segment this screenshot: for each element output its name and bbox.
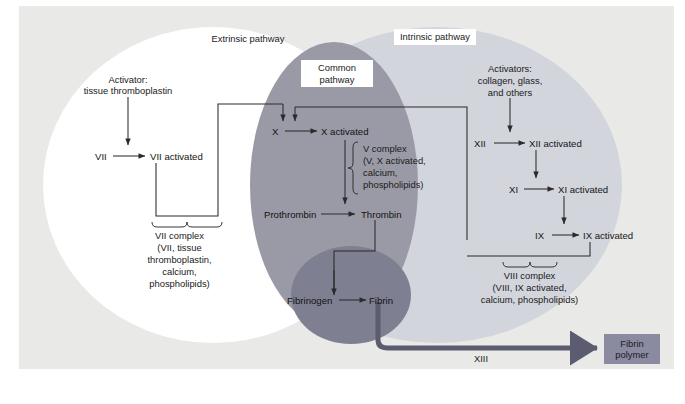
common-pathway-title-line2: pathway — [320, 74, 355, 85]
node-vii-activated: VII activated — [150, 151, 203, 162]
fibrin-polymer-line2: polymer — [615, 349, 648, 360]
extrinsic-activator-line2: tissue thromboplastin — [63, 85, 193, 97]
node-prothrombin: Prothrombin — [264, 209, 316, 220]
intrinsic-activator-line1: Activators: — [455, 63, 565, 75]
factor-xiii-label: XIII — [461, 353, 501, 365]
viii-complex-caption-line1: VIII complex — [457, 270, 602, 282]
vii-complex-caption-line4: calcium, — [117, 266, 242, 278]
common-pathway-title-line1: Common — [318, 62, 356, 73]
intrinsic-pathway-title: Intrinsic pathway — [394, 29, 476, 45]
vii-complex-caption-line5: phospholipids) — [117, 278, 242, 290]
node-thrombin: Thrombin — [361, 209, 402, 220]
extrinsic-pathway-title: Extrinsic pathway — [193, 33, 303, 45]
node-xi: XI — [509, 184, 518, 195]
coagulation-cascade-figure: Extrinsic pathway Intrinsic pathway Comm… — [0, 0, 685, 404]
intrinsic-activator-line3: and others — [455, 87, 565, 99]
fibrin-polymer-line1: Fibrin — [620, 338, 643, 349]
vii-complex-caption-line1: VII complex — [117, 230, 242, 242]
intrinsic-activator-line2: collagen, glass, — [455, 75, 565, 87]
vii-complex-caption-line3: thromboplastin, — [117, 254, 242, 266]
node-xii: XII — [474, 138, 486, 149]
node-ix-activated: IX activated — [583, 230, 633, 241]
node-ix: IX — [535, 230, 544, 241]
vii-complex-caption-line2: (VII, tissue — [117, 242, 242, 254]
node-fibrinogen: Fibrinogen — [287, 295, 332, 306]
node-fibrin: Fibrin — [369, 295, 393, 306]
v-complex-line1: V complex — [363, 143, 407, 155]
node-x-activated: X activated — [321, 126, 368, 137]
node-xii-activated: XII activated — [529, 138, 582, 149]
node-vii: VII — [95, 151, 107, 162]
viii-complex-caption-line3: calcium, phospholipids) — [457, 294, 602, 306]
extrinsic-activator-line1: Activator: — [63, 74, 193, 86]
v-complex-line3: calcium, — [363, 167, 397, 179]
common-pathway-title: Common pathway — [301, 60, 373, 87]
v-complex-line2: (V, X activated, — [363, 155, 426, 167]
node-x: X — [272, 126, 278, 137]
fibrin-polymer-box: Fibrin polymer — [604, 334, 660, 364]
v-complex-line4: phospholipids) — [363, 179, 423, 191]
viii-complex-caption-line2: (VIII, IX activated, — [457, 282, 602, 294]
node-xi-activated: XI activated — [558, 184, 608, 195]
